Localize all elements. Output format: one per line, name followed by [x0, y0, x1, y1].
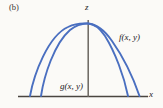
curve-f-label: f(x, y) [119, 33, 140, 42]
plot-canvas [0, 0, 163, 108]
panel-label: (b) [9, 3, 19, 12]
curve-f [41, 23, 128, 96]
z-axis-label: z [85, 3, 89, 12]
x-axis-label: x [149, 90, 153, 99]
figure-panel: (b) z x f(x, y) g(x, y) [0, 0, 163, 108]
curve-g-label: g(x, y) [60, 82, 83, 91]
